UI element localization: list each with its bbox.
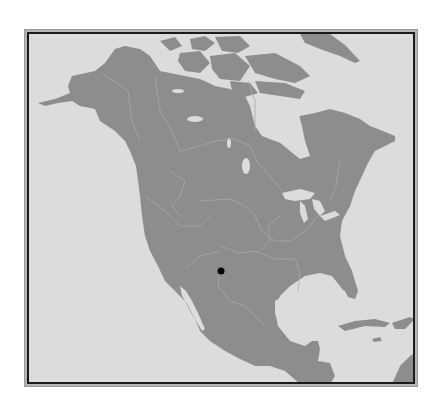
north-america-map xyxy=(29,34,415,384)
map-viewport xyxy=(27,32,415,384)
map-frame xyxy=(24,29,418,387)
location-marker[interactable] xyxy=(218,268,225,275)
